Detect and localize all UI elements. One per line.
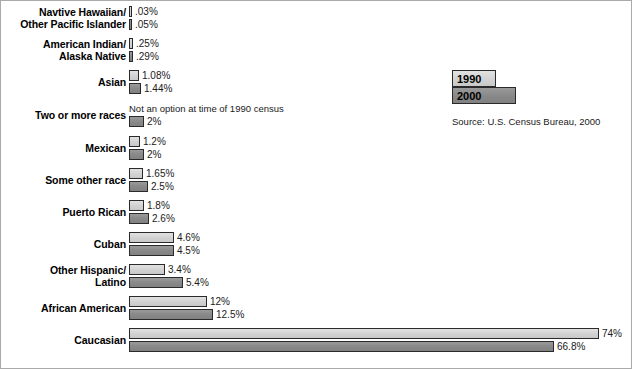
category-label: American Indian/ Alaska Native xyxy=(1,38,129,63)
chart-row: Puerto Rican1.8%2.6% xyxy=(1,199,632,225)
bar-1990 xyxy=(129,296,207,307)
chart-row: Caucasian74%66.8% xyxy=(1,327,632,353)
bar-group: 12%12.5% xyxy=(129,295,632,321)
bar-line-1990: 12% xyxy=(129,295,632,308)
chart-row: American Indian/ Alaska Native.25%.29% xyxy=(1,37,632,63)
bar-2000 xyxy=(129,51,133,62)
legend-item-2000: 2000 xyxy=(452,87,516,104)
category-label: Other Hispanic/ Latino xyxy=(1,264,129,289)
bar-value-2000: 2% xyxy=(147,116,161,127)
bar-value-1990: 1.2% xyxy=(143,136,166,147)
chart-row: Mexican1.2%2% xyxy=(1,135,632,161)
bar-group: 74%66.8% xyxy=(129,327,632,353)
category-label: Asian xyxy=(1,76,129,89)
bar-1990 xyxy=(129,328,599,339)
bar-value-2000: .05% xyxy=(135,19,158,30)
chart-row: African American12%12.5% xyxy=(1,295,632,321)
bar-group: 3.4%5.4% xyxy=(129,263,632,289)
bar-value-1990: 12% xyxy=(210,296,230,307)
bar-line-2000: 66.8% xyxy=(129,340,632,353)
bar-2000 xyxy=(129,309,213,320)
bar-value-2000: 2% xyxy=(147,149,161,160)
bar-line-2000: 2% xyxy=(129,148,632,161)
bar-line-1990: 74% xyxy=(129,327,632,340)
category-label: Navtive Hawaiian/ Other Pacific Islander xyxy=(1,6,129,31)
category-label: Mexican xyxy=(1,142,129,155)
chart-rows: Navtive Hawaiian/ Other Pacific Islander… xyxy=(1,5,632,359)
bar-value-2000: 5.4% xyxy=(186,277,209,288)
bar-value-2000: 4.5% xyxy=(177,245,200,256)
bar-line-2000: 2.5% xyxy=(129,180,632,193)
bar-1990 xyxy=(129,38,133,49)
bar-line-1990: .25% xyxy=(129,37,632,50)
bar-2000 xyxy=(129,245,174,256)
bar-line-1990: Not an option at time of 1990 census xyxy=(129,102,632,115)
bar-group: .03%.05% xyxy=(129,5,632,31)
bar-1990 xyxy=(129,136,140,147)
bar-line-2000: .05% xyxy=(129,18,632,31)
bar-2000 xyxy=(129,149,144,160)
bar-value-1990: 1.65% xyxy=(146,168,174,179)
bar-1990 xyxy=(129,70,139,81)
bar-group: 1.8%2.6% xyxy=(129,199,632,225)
bar-line-2000: 1.44% xyxy=(129,82,632,95)
chart-legend: 1990 2000 xyxy=(452,70,516,104)
bar-line-2000: 12.5% xyxy=(129,308,632,321)
bar-1990 xyxy=(129,168,143,179)
bar-line-2000: 4.5% xyxy=(129,244,632,257)
bar-1990 xyxy=(129,200,144,211)
category-label: African American xyxy=(1,302,129,315)
chart-row: Navtive Hawaiian/ Other Pacific Islander… xyxy=(1,5,632,31)
bar-value-1990: .03% xyxy=(135,6,158,17)
bar-value-2000: 12.5% xyxy=(216,309,244,320)
bar-1990 xyxy=(129,264,165,275)
bar-2000 xyxy=(129,277,183,288)
bar-value-1990: 1.8% xyxy=(147,200,170,211)
bar-1990 xyxy=(129,6,132,17)
bar-line-2000: 2.6% xyxy=(129,212,632,225)
bar-value-1990: 4.6% xyxy=(177,232,200,243)
bar-2000 xyxy=(129,83,141,94)
category-label: Cuban xyxy=(1,238,129,251)
bar-group: 1.65%2.5% xyxy=(129,167,632,193)
bar-group: .25%.29% xyxy=(129,37,632,63)
bar-value-2000: 2.5% xyxy=(151,181,174,192)
bar-2000 xyxy=(129,19,132,30)
chart-row: Asian1.08%1.44% xyxy=(1,69,632,95)
chart-row: Some other race1.65%2.5% xyxy=(1,167,632,193)
bar-line-1990: 1.08% xyxy=(129,69,632,82)
bar-line-2000: 5.4% xyxy=(129,276,632,289)
bar-line-1990: 4.6% xyxy=(129,231,632,244)
bar-value-2000: 66.8% xyxy=(557,341,585,352)
bar-line-1990: 3.4% xyxy=(129,263,632,276)
category-label: Puerto Rican xyxy=(1,206,129,219)
bar-value-2000: .29% xyxy=(136,51,159,62)
bar-value-2000: 1.44% xyxy=(144,83,172,94)
bar-1990 xyxy=(129,232,174,243)
bar-chart-figure: Navtive Hawaiian/ Other Pacific Islander… xyxy=(0,0,632,369)
bar-line-1990: 1.65% xyxy=(129,167,632,180)
chart-row: Cuban4.6%4.5% xyxy=(1,231,632,257)
bar-value-1990: 1.08% xyxy=(142,70,170,81)
bar-line-1990: .03% xyxy=(129,5,632,18)
category-label: Caucasian xyxy=(1,334,129,347)
bar-group: 1.2%2% xyxy=(129,135,632,161)
bar-line-1990: 1.8% xyxy=(129,199,632,212)
chart-row: Other Hispanic/ Latino3.4%5.4% xyxy=(1,263,632,289)
legend-item-1990: 1990 xyxy=(452,70,516,87)
source-note: Source: U.S. Census Bureau, 2000 xyxy=(452,116,600,127)
bar-2000 xyxy=(129,213,149,224)
bar-group: 1.08%1.44% xyxy=(129,69,632,95)
legend-swatch-1990: 1990 xyxy=(452,70,496,87)
bar-annotation: Not an option at time of 1990 census xyxy=(129,102,284,115)
bar-line-1990: 1.2% xyxy=(129,135,632,148)
bar-value-2000: 2.6% xyxy=(152,213,175,224)
bar-value-1990: 3.4% xyxy=(168,264,191,275)
legend-swatch-2000: 2000 xyxy=(452,87,516,104)
bar-value-1990: .25% xyxy=(136,38,159,49)
bar-line-2000: .29% xyxy=(129,50,632,63)
bar-2000 xyxy=(129,181,148,192)
bar-2000 xyxy=(129,116,144,127)
bar-group: 4.6%4.5% xyxy=(129,231,632,257)
bar-value-1990: 74% xyxy=(602,328,622,339)
